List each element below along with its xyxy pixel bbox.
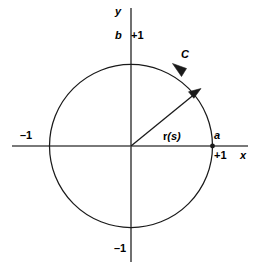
point-a-label: a	[214, 130, 220, 141]
y-axis-label: y	[115, 6, 121, 17]
vector-label-argument: (s)	[167, 130, 180, 142]
curve-label-c: C	[181, 49, 189, 60]
point-dot-icon	[210, 144, 215, 149]
curve-direction-arrow-icon	[173, 64, 187, 77]
x-tick-negative-one: –1	[20, 130, 32, 141]
position-vector-label: r(s)	[163, 131, 181, 142]
x-axis-label: x	[240, 150, 246, 161]
point-b-label: b	[115, 30, 122, 41]
y-tick-negative-one: –1	[114, 243, 126, 254]
unit-circle-figure: y b +1 C r(s) a +1 x –1 –1	[0, 0, 264, 269]
x-tick-positive-one: +1	[214, 150, 227, 161]
y-tick-positive-one: +1	[131, 30, 144, 41]
